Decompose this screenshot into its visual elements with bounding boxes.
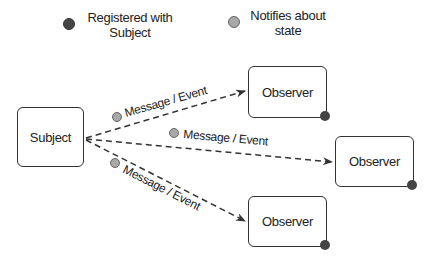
observer-box-2: Observer — [335, 136, 414, 187]
registered-dot-icon — [320, 240, 330, 250]
notify-dot-icon — [113, 113, 122, 122]
arrow-label-2: Message / Event — [183, 127, 270, 148]
observer-box-1: Observer — [248, 66, 327, 118]
observer-label-3: Observer — [262, 214, 313, 229]
observer-label-2: Observer — [349, 154, 400, 169]
subject-label: Subject — [30, 130, 71, 145]
registered-dot-icon — [407, 180, 417, 190]
arrow-to-observer-2: Message / Event — [86, 127, 332, 162]
subject-box: Subject — [17, 107, 84, 167]
notify-dot-icon — [111, 159, 120, 168]
notify-dot-icon — [170, 129, 179, 138]
arrow-label-3: Message / Event — [121, 162, 204, 213]
registered-dot-icon — [320, 111, 330, 121]
observer-label-1: Observer — [262, 85, 313, 100]
observer-box-3: Observer — [248, 196, 327, 247]
